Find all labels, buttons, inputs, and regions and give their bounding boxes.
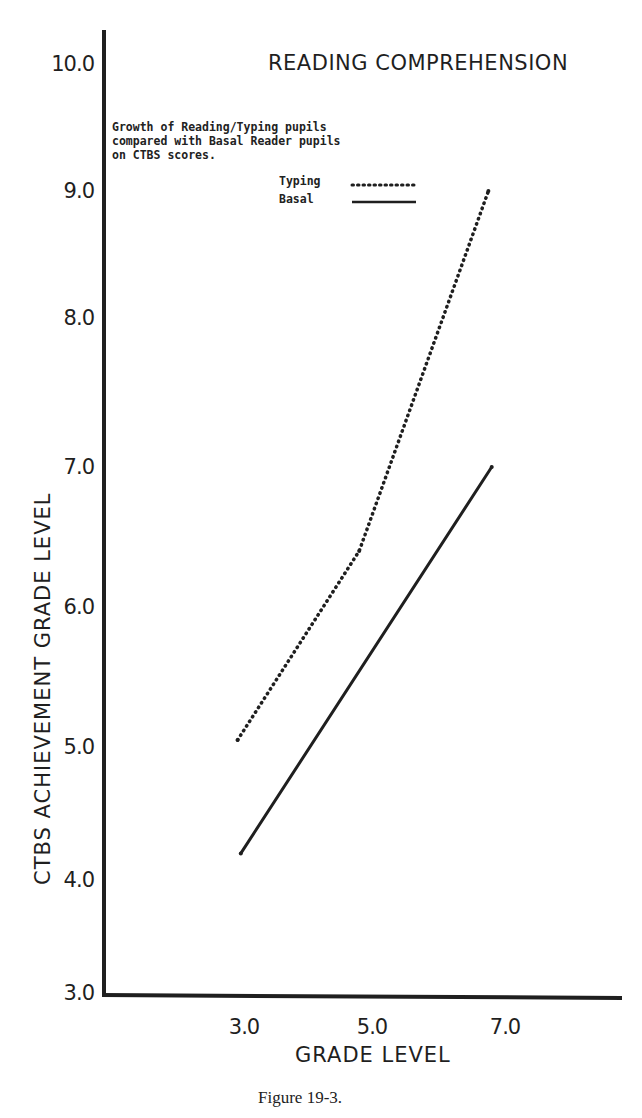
data-point-typing	[357, 549, 361, 553]
x-tick-label: 5.0	[357, 1015, 387, 1039]
y-tick-label: 4.0	[64, 868, 94, 892]
x-tick-label: 7.0	[490, 1015, 520, 1039]
annotation-note: Growth of Reading/Typing pupils compared…	[112, 120, 340, 162]
legend: Typing Basal	[279, 174, 416, 206]
x-tick-labels: 3.05.07.0	[229, 1015, 520, 1039]
series-line-typing	[238, 191, 489, 740]
series-layer	[236, 189, 494, 855]
axes	[102, 30, 622, 998]
y-tick-labels: 3.04.05.06.07.08.09.010.0	[51, 52, 94, 1005]
data-point-typing	[486, 189, 490, 193]
y-tick-label: 10.0	[51, 52, 94, 76]
y-tick-label: 9.0	[64, 179, 94, 203]
x-axis-title: GRADE LEVEL	[295, 1043, 451, 1067]
data-point-basal	[239, 851, 243, 855]
y-tick-label: 5.0	[64, 735, 94, 759]
annotation-line-1: Growth of Reading/Typing pupils	[112, 120, 327, 134]
legend-label-basal: Basal	[279, 192, 314, 206]
chart-title: READING COMPREHENSION	[268, 51, 568, 75]
series-line-basal	[241, 467, 492, 853]
chart: 3.04.05.06.07.08.09.010.0 3.05.07.0 READ…	[0, 0, 642, 1118]
annotation-line-3: on CTBS scores.	[112, 148, 216, 162]
data-point-basal	[490, 465, 494, 469]
x-tick-label: 3.0	[229, 1015, 259, 1039]
y-tick-label: 8.0	[64, 306, 94, 330]
figure-caption: Figure 19-3.	[258, 1088, 342, 1107]
legend-label-typing: Typing	[279, 174, 321, 188]
y-tick-label: 3.0	[64, 981, 94, 1005]
y-tick-label: 7.0	[64, 455, 94, 479]
annotation-line-2: compared with Basal Reader pupils	[112, 134, 340, 148]
y-tick-label: 6.0	[64, 595, 94, 619]
data-point-typing	[236, 738, 240, 742]
x-axis-line	[102, 995, 622, 998]
y-axis-title: CTBS ACHIEVEMENT GRADE LEVEL	[31, 493, 55, 885]
